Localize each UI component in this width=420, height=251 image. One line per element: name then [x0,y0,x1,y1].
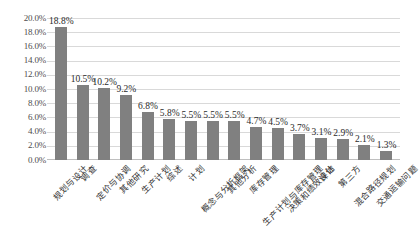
bar-slot: 4.7% [245,18,267,160]
x-axis-label-slot: 设计 [310,162,332,250]
bar-value-label: 5.5% [203,110,223,120]
x-axis-category-labels: 规划与设计调查定价与协调其他研究生产计划综述计划概念与分析框架其他分析库存管理生… [47,162,400,250]
bar-value-label: 6.8% [138,101,158,111]
bar-value-label: 5.5% [181,110,201,120]
bar-value-label: 2.9% [333,128,353,138]
bar[interactable] [77,85,89,160]
y-axis-tick-label: 0.0% [2,156,46,165]
bar-slot: 18.8% [50,18,72,160]
x-axis-label-slot: 生产计划 [137,162,159,250]
bar-slot: 1.3% [375,18,397,160]
bar-slot: 3.7% [289,18,311,160]
x-axis-tick-label: 交通运输问题 [375,164,420,209]
x-axis-label-slot: 交通运输问题 [375,162,397,250]
bar[interactable] [250,127,262,160]
x-axis-label-slot: 其他分析 [224,162,246,250]
bar-slot: 2.1% [354,18,376,160]
bar-value-label: 1.3% [377,140,397,150]
x-axis-label-slot: 定价与协调 [93,162,115,250]
bar[interactable] [163,119,175,160]
bar[interactable] [55,27,67,160]
bar-slot: 10.2% [93,18,115,160]
x-axis-label-slot: 计划 [180,162,202,250]
x-axis-label-slot: 混合路径规划 [354,162,376,250]
bar-slot: 2.9% [332,18,354,160]
bar[interactable] [120,95,132,160]
bar-value-label: 3.7% [290,123,310,133]
bar-value-label: 18.8% [49,16,74,26]
x-axis-label-slot: 规划与设计 [50,162,72,250]
x-axis-label-slot: 调查 [72,162,94,250]
x-axis-label-slot: 决策和绩效评估 [289,162,311,250]
y-axis-tick-label: 2.0% [2,141,46,150]
bar-value-label: 4.5% [268,117,288,127]
bar-series: 18.8%10.5%10.2%9.2%6.8%5.8%5.5%5.5%5.5%4… [47,18,400,160]
y-axis-tick-label: 20.0% [2,14,46,23]
bar-value-label: 5.8% [160,108,180,118]
bar[interactable] [293,134,305,160]
x-axis-label-slot: 其他研究 [115,162,137,250]
bar[interactable] [380,151,392,160]
bar-value-label: 4.7% [247,116,267,126]
y-axis-tick-label: 16.0% [2,42,46,51]
bar[interactable] [337,139,349,160]
bar-slot: 5.8% [158,18,180,160]
bar-value-label: 2.1% [355,134,375,144]
x-axis-label-slot: 综述 [158,162,180,250]
bar-value-label: 9.2% [116,84,136,94]
bar[interactable] [358,145,370,160]
bar-slot: 4.5% [267,18,289,160]
y-axis-tick-label: 14.0% [2,56,46,65]
y-axis-tick-label: 8.0% [2,99,46,108]
bar[interactable] [228,121,240,160]
bar-value-label: 10.2% [92,77,117,87]
bar-slot: 5.5% [180,18,202,160]
bar[interactable] [207,121,219,160]
bar-slot: 10.5% [72,18,94,160]
bar-slot: 9.2% [115,18,137,160]
x-axis-label-slot: 库存管理 [245,162,267,250]
y-axis-tick-label: 6.0% [2,113,46,122]
y-axis-tick-label: 18.0% [2,28,46,37]
bar-value-label: 5.5% [225,110,245,120]
bar-slot: 6.8% [137,18,159,160]
bar[interactable] [272,128,284,160]
bar-slot: 5.5% [224,18,246,160]
x-axis-label-slot: 概念与分析框架 [202,162,224,250]
y-axis: 20.0%18.0%16.0%14.0%12.0%10.0%8.0%6.0%4.… [0,18,46,160]
y-axis-tick-label: 4.0% [2,127,46,136]
bar[interactable] [98,88,110,160]
bar-slot: 5.5% [202,18,224,160]
bar[interactable] [142,112,154,160]
plot-area: 18.8%10.5%10.2%9.2%6.8%5.8%5.5%5.5%5.5%4… [47,18,400,160]
y-axis-tick-label: 10.0% [2,85,46,94]
x-axis-label-slot: 第三方 [332,162,354,250]
bar-slot: 3.1% [310,18,332,160]
bar[interactable] [315,138,327,160]
bar-value-label: 3.1% [312,127,332,137]
y-axis-tick-label: 12.0% [2,70,46,79]
bar[interactable] [185,121,197,160]
